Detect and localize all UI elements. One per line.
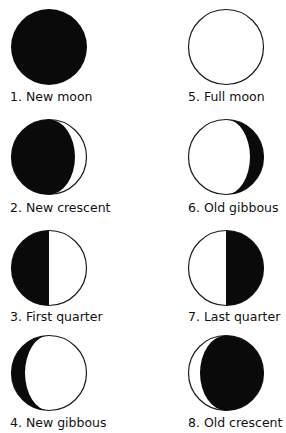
phase-new-crescent: 2. New crescent [10, 119, 120, 219]
phase-new-gibbous: 4. New gibbous [10, 334, 120, 433]
old-gibbous-icon [188, 119, 268, 199]
phase-label: 3. First quarter [10, 309, 103, 324]
phase-label: 4. New gibbous [10, 415, 107, 430]
phase-old-crescent: 8. Old crescent [188, 334, 286, 433]
phase-last-quarter: 7. Last quarter [188, 230, 286, 328]
phase-label: 8. Old crescent [188, 415, 282, 430]
last-quarter-icon [188, 230, 268, 310]
moon-phases-diagram: 1. New moon 2. New crescent 3. First qua… [0, 0, 286, 433]
phase-label: 7. Last quarter [188, 309, 280, 324]
new-gibbous-icon [10, 334, 90, 414]
phase-label: 6. Old gibbous [188, 200, 278, 215]
first-quarter-icon [10, 230, 90, 310]
new-crescent-icon [10, 119, 90, 199]
phase-label: 1. New moon [10, 89, 93, 104]
new-moon-icon [10, 8, 90, 88]
phase-first-quarter: 3. First quarter [10, 230, 120, 328]
phase-new-moon: 1. New moon [10, 8, 120, 106]
full-moon-icon [188, 9, 268, 89]
phase-old-gibbous: 6. Old gibbous [188, 119, 286, 219]
phase-full-moon: 5. Full moon [188, 9, 286, 107]
phase-label: 2. New crescent [10, 200, 110, 215]
phase-label: 5. Full moon [188, 89, 265, 104]
old-crescent-icon [188, 334, 268, 414]
